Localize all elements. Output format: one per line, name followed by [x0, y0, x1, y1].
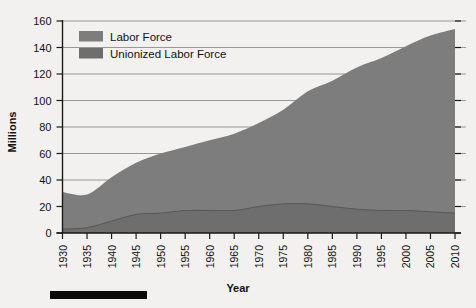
y-tick-label: 40 [39, 174, 51, 186]
y-tick-label: 0 [45, 227, 51, 239]
legend-swatch [79, 48, 103, 59]
x-tick-label: 2005 [424, 245, 436, 269]
x-tick-label: 1930 [57, 245, 69, 269]
x-tick-label: 1975 [277, 245, 289, 269]
x-tick-label: 2000 [400, 245, 412, 269]
x-tick-label: 1970 [253, 245, 265, 269]
x-tick-label: 1940 [106, 245, 118, 269]
x-axis-title: Year [226, 282, 250, 294]
y-tick-label: 140 [33, 42, 51, 54]
x-tick-label: 1945 [130, 245, 142, 269]
x-tick-label: 2010 [449, 245, 461, 269]
x-tick-label: 1960 [204, 245, 216, 269]
y-axis-title: Millions [6, 112, 18, 153]
y-tick-label: 100 [33, 95, 51, 107]
y-tick-label: 20 [39, 201, 51, 213]
x-tick-labels-group: 1930193519401945195019551960196519701975… [57, 245, 462, 269]
chart-figure: 020406080100120140160 193019351940194519… [0, 0, 476, 308]
x-tick-label: 1955 [179, 245, 191, 269]
legend-label: Labor Force [110, 31, 172, 43]
x-tick-label: 1950 [155, 245, 167, 269]
labor-force-area-chart: 020406080100120140160 193019351940194519… [0, 0, 476, 308]
y-tick-label: 120 [33, 68, 51, 80]
x-tick-label: 1935 [81, 245, 93, 269]
x-tick-label: 1965 [228, 245, 240, 269]
footer-decoration-bar [50, 291, 147, 299]
legend-swatch [79, 31, 103, 42]
legend-label: Unionized Labor Force [110, 48, 226, 60]
x-tick-label: 1985 [326, 245, 338, 269]
y-tick-label: 60 [39, 148, 51, 160]
y-tick-label: 160 [33, 15, 51, 27]
x-tick-label: 1980 [302, 245, 314, 269]
x-tick-label: 1995 [375, 245, 387, 269]
x-tick-label: 1990 [351, 245, 363, 269]
y-tick-label: 80 [39, 121, 51, 133]
